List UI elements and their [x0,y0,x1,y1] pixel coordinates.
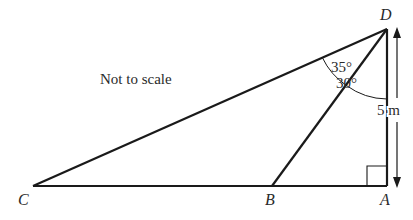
angle-label-CDB: 35° [331,59,352,75]
segment-BD [272,29,387,186]
point-label-A: A [379,191,390,208]
point-label-B: B [265,191,275,208]
triangle-diagram: D A B C 35° 30° 5 m Not to scale [0,0,413,220]
point-label-D: D [379,6,392,23]
not-to-scale-note: Not to scale [100,71,172,87]
segment-CD [33,29,387,186]
arrow-down-icon [393,177,401,188]
measurement-label-DA: 5 m [377,102,400,118]
arrow-up-icon [393,27,401,38]
angle-label-BDA: 30° [336,75,357,91]
point-label-C: C [18,191,29,208]
right-angle-marker [367,166,387,186]
